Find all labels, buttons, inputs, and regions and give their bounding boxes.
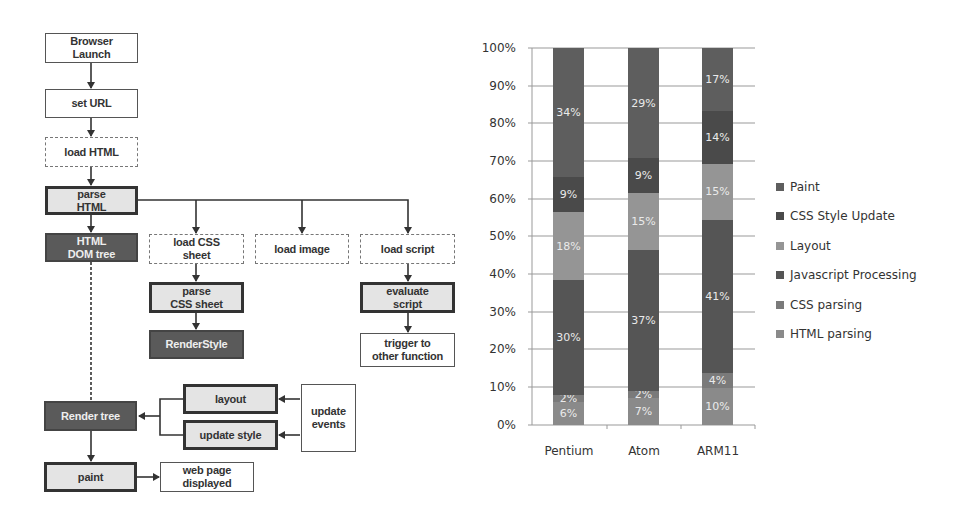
legend-label: CSS Style Update bbox=[790, 209, 895, 223]
legend-label: HTML parsing bbox=[790, 327, 872, 341]
bar-arm11: 10%4%41%15%14%17% bbox=[702, 48, 733, 425]
y-tick-label: 20% bbox=[466, 342, 516, 356]
bar-segment: 4% bbox=[702, 373, 733, 388]
bar-segment: 15% bbox=[628, 193, 659, 250]
y-tick-label: 70% bbox=[466, 154, 516, 168]
bar-segment: 7% bbox=[628, 398, 659, 425]
legend-swatch-icon bbox=[776, 330, 784, 338]
y-tick-label: 90% bbox=[466, 79, 516, 93]
bar-segment: 30% bbox=[553, 280, 584, 394]
bar-segment: 15% bbox=[702, 164, 733, 220]
y-tick-label: 10% bbox=[466, 380, 516, 394]
bar-atom: 7%2%37%15%9%29% bbox=[628, 48, 659, 425]
y-tick-label: 0% bbox=[466, 418, 516, 432]
legend-swatch-icon bbox=[776, 212, 784, 220]
legend-item-css-style-update: CSS Style Update bbox=[776, 202, 917, 232]
bar-segment: 18% bbox=[553, 212, 584, 281]
y-tick-label: 60% bbox=[466, 192, 516, 206]
x-tick-label: Atom bbox=[609, 444, 679, 458]
legend-label: Javascript Processing bbox=[790, 268, 917, 282]
legend-label: Paint bbox=[790, 180, 820, 194]
y-tick-label: 50% bbox=[466, 229, 516, 243]
legend-item-html-parsing: HTML parsing bbox=[776, 320, 917, 350]
bar-segment: 9% bbox=[553, 177, 584, 211]
bar-segment: 2% bbox=[553, 395, 584, 403]
legend-item-css-parsing: CSS parsing bbox=[776, 290, 917, 320]
legend-swatch-icon bbox=[776, 271, 784, 279]
bar-segment: 41% bbox=[702, 220, 733, 373]
y-tick-label: 30% bbox=[466, 305, 516, 319]
chart-legend: Paint CSS Style Update Layout Javascript… bbox=[776, 172, 917, 349]
y-tick-label: 100% bbox=[466, 41, 516, 55]
y-tick-label: 40% bbox=[466, 267, 516, 281]
bar-segment: 17% bbox=[702, 48, 733, 111]
legend-swatch-icon bbox=[776, 183, 784, 191]
legend-item-javascript-processing: Javascript Processing bbox=[776, 261, 917, 291]
legend-swatch-icon bbox=[776, 242, 784, 250]
legend-label: Layout bbox=[790, 239, 831, 253]
y-tick-label: 80% bbox=[466, 116, 516, 130]
legend-label: CSS parsing bbox=[790, 298, 862, 312]
bar-segment: 14% bbox=[702, 111, 733, 163]
bar-segment: 29% bbox=[628, 48, 659, 158]
x-tick-label: Pentium bbox=[534, 444, 604, 458]
bar-segment: 6% bbox=[553, 402, 584, 425]
bar-segment: 9% bbox=[628, 158, 659, 192]
legend-swatch-icon bbox=[776, 301, 784, 309]
bar-segment: 2% bbox=[628, 391, 659, 399]
bar-segment: 10% bbox=[702, 388, 733, 425]
legend-item-paint: Paint bbox=[776, 172, 917, 202]
legend-item-layout: Layout bbox=[776, 231, 917, 261]
bar-pentium: 6%2%30%18%9%34% bbox=[553, 48, 584, 425]
bar-segment: 34% bbox=[553, 48, 584, 177]
x-tick-label: ARM11 bbox=[683, 444, 753, 458]
bar-segment: 37% bbox=[628, 250, 659, 391]
